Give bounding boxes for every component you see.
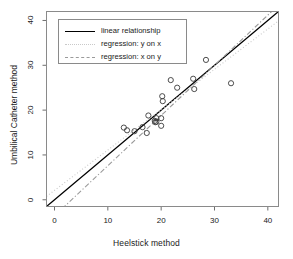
y-tick-label: 40	[26, 12, 35, 28]
legend-key-solid-line-icon	[65, 25, 95, 37]
x-tick-label: 10	[103, 216, 112, 225]
x-tick-label: 30	[210, 216, 219, 225]
y-tick-label: 20	[26, 102, 35, 118]
legend-label: regression: y on x	[101, 38, 161, 50]
scatter-plot-figure: 010203040 010203040 Umbilical Catheter m…	[0, 0, 293, 259]
y-tick-label: 0	[26, 192, 35, 208]
x-tick-label: 20	[157, 216, 166, 225]
legend-label: regression: x on y	[101, 51, 161, 63]
y-axis-title: Umbilical Catheter method	[7, 0, 21, 230]
x-axis-title: Heelstick method	[0, 238, 293, 248]
y-tick-label: 10	[26, 147, 35, 163]
legend-item-linear-relationship: linear relationship	[59, 25, 186, 37]
x-tick-label: 0	[52, 216, 56, 225]
legend-key-dotted-line-icon	[65, 38, 95, 50]
y-tick-labels: 010203040	[22, 0, 38, 259]
y-axis-title-text: Umbilical Catheter method	[9, 65, 19, 165]
legend-item-regression-y-on-x: regression: y on x	[59, 38, 186, 50]
legend-item-regression-x-on-y: regression: x on y	[59, 51, 186, 63]
legend-key-dashdot-line-icon	[65, 51, 95, 63]
y-tick-label: 30	[26, 57, 35, 73]
legend-label: linear relationship	[101, 25, 161, 37]
chart-legend: linear relationship regression: y on x r…	[58, 19, 187, 64]
x-tick-label: 40	[263, 216, 272, 225]
